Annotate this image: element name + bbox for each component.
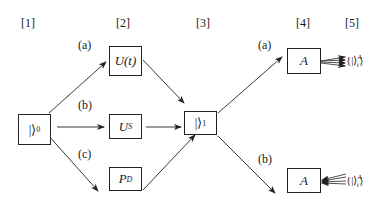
unitary-s-label: U — [119, 119, 128, 135]
final-state-ket: |⟩ — [195, 115, 203, 131]
unitary-s-sub: S — [128, 122, 132, 131]
projector-d-sub: D — [127, 175, 133, 184]
stage-label-1: [1] — [21, 16, 35, 31]
node-observable-a-top: A — [287, 48, 321, 74]
observable-a-bottom-label: A — [300, 173, 308, 189]
arrows-layer — [0, 0, 385, 206]
node-final-state: |⟩1 — [184, 111, 217, 135]
final-state-sub: 1 — [202, 119, 206, 128]
arrow-ut-to-final — [143, 60, 184, 103]
initial-state-ket: |⟩ — [29, 122, 37, 138]
branch-label-a-right: (a) — [258, 38, 271, 53]
stage-label-5: [5] — [345, 16, 359, 31]
arrow-pd-to-final — [143, 135, 195, 190]
stage-label-2: [2] — [116, 16, 130, 31]
branch-label-a-left: (a) — [78, 38, 91, 53]
stage-label-3: [3] — [196, 16, 210, 31]
unitary-time-label: U(t) — [115, 53, 137, 69]
brace-close: } — [359, 54, 364, 66]
node-unitary-time: U(t) — [109, 46, 142, 76]
fan-arrows-top — [321, 57, 345, 66]
stage-label-4: [4] — [296, 16, 310, 31]
projector-d-label: P — [119, 171, 127, 187]
branch-label-c-left: (c) — [78, 147, 91, 162]
observable-a-top-label: A — [300, 53, 308, 69]
node-projector-d: PD — [109, 167, 142, 191]
branch-label-b-left: (b) — [78, 98, 92, 113]
outcome-set-top: {|⟩Ai} — [346, 53, 364, 69]
node-initial-state: |⟩0 — [18, 114, 51, 145]
arrow-initial-to-pd — [48, 135, 98, 191]
outcome-set-bottom: {|⟩Ai} — [346, 173, 364, 189]
branch-label-b-right: (b) — [258, 152, 272, 167]
brace-close: } — [359, 174, 364, 186]
node-unitary-s: US — [109, 114, 142, 139]
fan-arrows-bottom — [322, 174, 346, 184]
initial-state-sub: 0 — [36, 125, 40, 134]
arrow-final-to-a-top — [218, 57, 282, 113]
node-observable-a-bottom: A — [287, 168, 321, 193]
